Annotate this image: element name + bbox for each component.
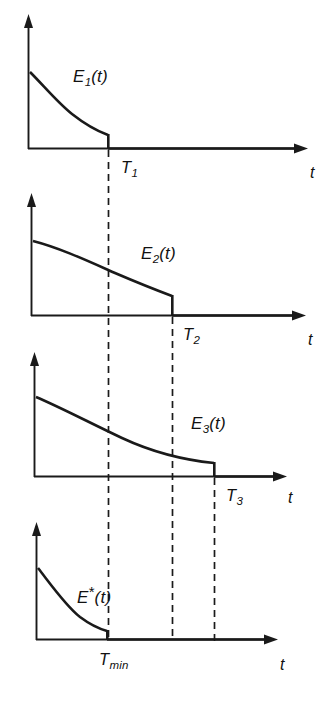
panel-3-tick-label-main: T bbox=[226, 486, 236, 504]
panel-4-tick-label-tmin: Tmin bbox=[99, 651, 128, 668]
panel-1-tick-label-main: T bbox=[121, 158, 131, 176]
panel-2-axis-label-t: t bbox=[308, 332, 313, 348]
panel-4-graph bbox=[32, 522, 278, 644]
panel-3-tick-label-t3: T3 bbox=[226, 487, 243, 504]
panel-1-tick-label-t1: T1 bbox=[121, 159, 138, 176]
figure-canvas bbox=[0, 0, 326, 710]
panel-1-graph bbox=[24, 14, 308, 153]
panel-3-curve bbox=[36, 397, 214, 463]
panel-3-tick-label-sub: 3 bbox=[237, 495, 244, 507]
panel-1-axis-label-t: t bbox=[310, 165, 315, 181]
panel-2-curve-label-arg: (t) bbox=[159, 244, 176, 263]
panel-2-tick-label-main: T bbox=[183, 325, 193, 343]
panel-3-curve-label-sub: 3 bbox=[203, 423, 210, 435]
panel-3-curve-label-arg: (t) bbox=[209, 414, 226, 433]
panel-1-curve-label-arg: (t) bbox=[91, 67, 108, 86]
panel-1-tick-label-sub: 1 bbox=[132, 167, 139, 179]
panel-1-curve-label: E1(t) bbox=[73, 68, 108, 85]
panel-1-curve-label-main: E bbox=[73, 67, 85, 86]
panel-4-curve-label: E*(t) bbox=[77, 589, 111, 606]
panel-4-curve-label-main: E bbox=[77, 588, 89, 607]
panel-2-curve-label-main: E bbox=[141, 244, 153, 263]
panel-2-y-axis-arrowhead bbox=[27, 193, 36, 207]
panel-4-y-axis-arrowhead bbox=[32, 522, 41, 536]
panel-4-tick-label-sub: min bbox=[110, 659, 129, 671]
panel-3-axis-label-t: t bbox=[288, 490, 293, 506]
panel-4-curve-label-star: * bbox=[89, 583, 95, 600]
panel-4-curve-label-arg: (t) bbox=[95, 588, 112, 607]
panel-1-curve-label-sub: 1 bbox=[85, 76, 92, 88]
panel-4-axis-label-t: t bbox=[280, 657, 285, 673]
panel-1-y-axis-arrowhead bbox=[24, 14, 33, 28]
panel-2-tick-label-t2: T2 bbox=[183, 326, 200, 343]
panel-3-graph bbox=[30, 352, 287, 481]
panel-2-curve-label: E2(t) bbox=[141, 245, 176, 262]
panel-2-curve-label-sub: 2 bbox=[153, 253, 160, 265]
panel-3-y-axis-arrowhead bbox=[30, 352, 39, 366]
panel-2-tick-label-sub: 2 bbox=[194, 334, 201, 346]
panel-4-tick-label-main: T bbox=[99, 650, 109, 668]
panel-3-curve-label: E3(t) bbox=[191, 415, 226, 432]
panel-3-curve-label-main: E bbox=[191, 414, 203, 433]
figure-root: E1(t) T1 t E2(t) T2 t E3(t) T3 t E*(t) T… bbox=[0, 0, 326, 710]
